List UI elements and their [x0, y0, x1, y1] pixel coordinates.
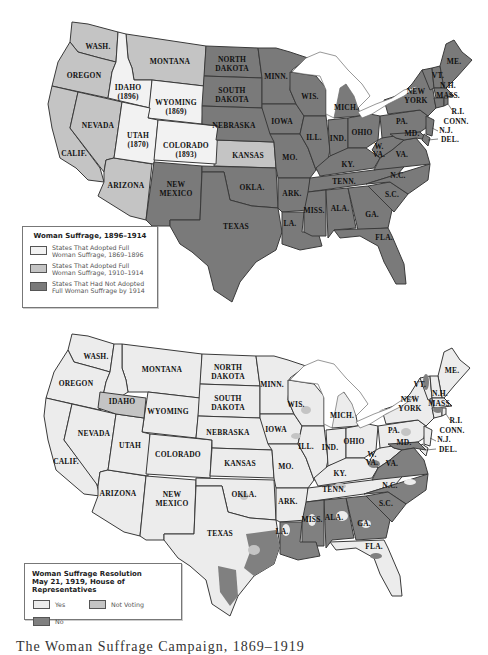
label-sc: S.C.: [379, 499, 393, 508]
label-okla: OKLA.: [232, 490, 257, 499]
legend-item-not-voting: Not Voting: [89, 600, 144, 609]
label-wyoming: WYOMING: [155, 98, 196, 107]
label-new-mexico-2: MEXICO: [156, 499, 189, 508]
legend-suffrage-resolution-1919: Woman Suffrage Resolution May 21, 1919, …: [24, 563, 182, 620]
label-miss: MISS.: [301, 515, 322, 524]
legend-suffrage-1896-1914: Woman Suffrage, 1896–1914 States That Ad…: [22, 226, 158, 308]
label-colorado: COLORADO: [155, 450, 201, 459]
label-nevada: NEVADA: [78, 429, 111, 438]
label-new-york-1: NEW: [407, 87, 426, 96]
label-north-dakota-2: DAKOTA: [211, 372, 245, 381]
patch-nv-pa: [401, 428, 411, 436]
label-md: MD.: [397, 438, 412, 447]
state-new-jersey: [426, 116, 434, 136]
label-mass: MASS.: [436, 91, 460, 100]
label-ri: R.I.: [450, 416, 463, 425]
label-mo: MO.: [278, 462, 293, 471]
legend-item-not-adopted: States That Had Not AdoptedFull Woman Su…: [30, 280, 157, 294]
label-ohio: OHIO: [351, 128, 372, 137]
label-montana: MONTANA: [142, 365, 183, 374]
legend-item-1869-1896: States That Adopted FullWoman Suffrage, …: [30, 244, 157, 258]
label-pa: PA.: [396, 117, 408, 126]
label-south-dakota-1: SOUTH: [218, 86, 245, 95]
label-new-mexico-1: NEW: [163, 490, 182, 499]
patch-no-fla: [370, 553, 382, 559]
label-ark: ARK.: [278, 497, 297, 506]
state-new-jersey: [424, 426, 432, 446]
label-ky: KY.: [341, 160, 354, 169]
label-wyoming: WYOMING: [147, 407, 188, 416]
label-north-dakota-1: NORTH: [218, 55, 246, 64]
label-nebraska: NEBRASKA: [206, 428, 250, 437]
label-ga: GA.: [357, 519, 371, 528]
label-nj: N.J.: [439, 126, 453, 135]
label-nj: N.J.: [437, 435, 451, 444]
label-conn: CONN.: [440, 426, 465, 435]
patch-nv-texas: [248, 545, 260, 555]
label-oregon: OREGON: [67, 71, 102, 80]
label-texas: TEXAS: [223, 222, 249, 231]
label-ark: ARK.: [282, 189, 301, 198]
legend-item-1910-1914: States That Adopted FullWoman Suffrage, …: [30, 262, 157, 276]
label-ala: ALA.: [325, 513, 344, 522]
label-del: DEL.: [441, 135, 459, 144]
label-fla: FLA.: [375, 233, 393, 242]
legend-title: Woman Suffrage, 1896–1914: [23, 232, 157, 240]
swatch-white: [30, 246, 47, 255]
label-utah: UTAH: [127, 131, 149, 140]
label-minn: MINN.: [260, 380, 284, 389]
label-new-york-1: NEW: [401, 395, 420, 404]
label-ill: ILL.: [298, 442, 314, 451]
state-new-mexico: [140, 476, 196, 540]
label-okla: OKLA.: [240, 183, 265, 192]
label-minn: MINN.: [264, 72, 288, 81]
label-ill: ILL.: [306, 133, 322, 142]
label-conn: CONN.: [444, 117, 469, 126]
patch-nv-iowa: [291, 433, 301, 439]
label-iowa: IOWA: [271, 117, 293, 126]
legend-title: Woman Suffrage Resolution May 21, 1919, …: [32, 570, 181, 594]
label-nc: N.C.: [382, 481, 397, 490]
label-del: DEL.: [439, 445, 457, 454]
label-kansas: KANSAS: [224, 459, 256, 468]
label-idaho: IDAHO: [115, 83, 141, 92]
label-ohio: OHIO: [343, 437, 364, 446]
label-nh: N.H.: [432, 389, 448, 398]
label-colorado: COLORADO: [163, 141, 209, 150]
label-ky: KY.: [333, 469, 346, 478]
label-south-dakota-2: DAKOTA: [211, 403, 245, 412]
label-ga: GA.: [365, 210, 379, 219]
label-va: VA.: [396, 150, 408, 159]
label-wis: WIS.: [301, 92, 318, 101]
label-wva-2: VA.: [373, 150, 385, 159]
swatch-no: [33, 617, 50, 626]
label-new-york-2: YORK: [404, 96, 427, 105]
label-me: ME.: [447, 57, 462, 66]
label-idaho: IDAHO: [109, 397, 135, 406]
label-la: LA.: [276, 527, 289, 536]
swatch-dark-gray: [30, 282, 47, 291]
label-north-dakota-2: DAKOTA: [215, 64, 249, 73]
label-wyoming-year: (1869): [165, 107, 186, 116]
label-mass: MASS.: [428, 399, 452, 408]
label-nebraska: NEBRASKA: [212, 121, 256, 130]
label-ind: IND.: [330, 134, 346, 143]
label-nh: N.H.: [440, 81, 456, 90]
label-md: MD.: [405, 129, 420, 138]
label-wis: WIS.: [287, 400, 304, 409]
label-idaho-year: (1896): [117, 92, 138, 101]
label-new-york-2: YORK: [398, 404, 421, 413]
label-miss: MISS.: [303, 206, 324, 215]
label-sc: S.C.: [385, 190, 399, 199]
label-montana: MONTANA: [150, 57, 191, 66]
state-florida: [334, 228, 406, 284]
label-ri: R.I.: [452, 107, 465, 116]
legend-item-yes: Yes: [33, 600, 65, 609]
label-kansas: KANSAS: [232, 151, 264, 160]
label-oregon: OREGON: [59, 379, 94, 388]
label-colorado-year: (1893): [175, 150, 196, 159]
label-wva-2: VA.: [366, 458, 378, 467]
label-mo: MO.: [282, 153, 297, 162]
label-nc: N.C.: [390, 171, 405, 180]
label-iowa: IOWA: [265, 425, 287, 434]
